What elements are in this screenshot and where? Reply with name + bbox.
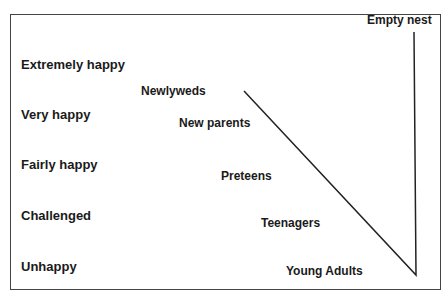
happiness-curve — [0, 0, 448, 299]
